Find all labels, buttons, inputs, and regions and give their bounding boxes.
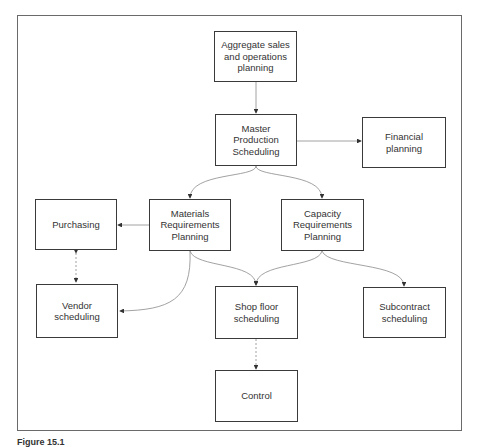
node-label: Aggregate sales and operations planning [221, 39, 290, 74]
edge-mrp-vendor [120, 251, 190, 311]
figure-caption: Figure 15.1 [17, 437, 65, 447]
node-master-production-scheduling: Master Production Scheduling [215, 114, 297, 166]
node-control: Control [215, 370, 298, 422]
edge-crp-shopfloor [256, 251, 322, 285]
node-vendor-scheduling: Vendor scheduling [36, 284, 118, 338]
node-financial-planning: Financial planning [362, 117, 446, 168]
node-subcontract-scheduling: Subcontract scheduling [363, 287, 446, 338]
edge-mps-crp [256, 166, 322, 198]
node-purchasing: Purchasing [35, 199, 117, 250]
node-label: Financial planning [385, 131, 423, 154]
node-label: Purchasing [52, 219, 100, 231]
node-label: Master Production Scheduling [232, 123, 279, 158]
node-label: Subcontract scheduling [379, 301, 430, 324]
node-label: Capacity Requirements Planning [293, 208, 352, 243]
edge-crp-subcontract [322, 251, 404, 286]
node-shop-floor-scheduling: Shop floor scheduling [215, 286, 298, 339]
node-materials-requirements-planning: Materials Requirements Planning [149, 199, 231, 251]
edge-mrp-shopfloor [190, 251, 256, 285]
edge-mps-mrp [190, 166, 256, 198]
node-aggregate-sales-operations-planning: Aggregate sales and operations planning [214, 31, 297, 82]
node-label: Shop floor scheduling [234, 301, 279, 324]
node-capacity-requirements-planning: Capacity Requirements Planning [281, 199, 364, 251]
node-label: Vendor scheduling [54, 300, 99, 323]
node-label: Materials Requirements Planning [160, 208, 219, 243]
node-label: Control [241, 390, 272, 402]
